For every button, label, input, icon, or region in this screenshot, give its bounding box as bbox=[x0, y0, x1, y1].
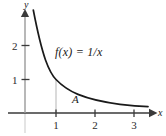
y-axis-arrowhead bbox=[21, 9, 29, 17]
x-tick-label-3: 3 bbox=[131, 120, 137, 131]
x-axis-label: x bbox=[158, 108, 162, 118]
function-graph-figure: y x 1 2 1 2 3 f(x) = 1/x A bbox=[0, 0, 166, 136]
x-tick-label-2: 2 bbox=[92, 120, 98, 131]
y-axis-label: y bbox=[24, 0, 28, 10]
x-axis-arrowhead bbox=[149, 109, 158, 118]
plot-canvas bbox=[0, 0, 166, 136]
x-tick-label-1: 1 bbox=[53, 120, 59, 131]
y-tick-label-1: 1 bbox=[12, 75, 18, 86]
y-tick-label-2: 2 bbox=[12, 41, 18, 52]
region-area-label: A bbox=[72, 94, 79, 105]
function-equation-label: f(x) = 1/x bbox=[55, 46, 102, 58]
